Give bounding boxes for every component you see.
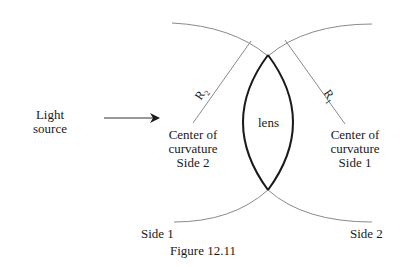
side2-label: Side 2: [350, 227, 383, 241]
lens-diagram: Light source Center of curvature Side 2 …: [0, 0, 404, 267]
center-side1-line1: Center of: [315, 128, 395, 142]
center-of-curvature-side1: Center of curvature Side 1: [315, 128, 395, 170]
figure-caption: Figure 12.11: [170, 244, 236, 258]
lens-label: lens: [258, 116, 279, 130]
arc-top-right: [268, 24, 372, 56]
radius-line-r1: [285, 40, 345, 124]
light-source-label: Light source: [24, 108, 76, 136]
arc-top-left: [172, 23, 268, 56]
light-source-line2: source: [24, 122, 76, 136]
side1-label: Side 1: [141, 227, 174, 241]
center-side2-line2: curvature: [153, 142, 233, 156]
center-side2-line1: Center of: [153, 128, 233, 142]
center-side1-line2: curvature: [315, 142, 395, 156]
light-source-line1: Light: [24, 108, 76, 122]
center-side2-line3: Side 2: [153, 156, 233, 170]
center-of-curvature-side2: Center of curvature Side 2: [153, 128, 233, 170]
center-side1-line3: Side 1: [315, 156, 395, 170]
radius-line-r2: [193, 41, 251, 123]
arc-bottom-right: [268, 190, 372, 222]
arc-bottom-left: [174, 190, 268, 222]
